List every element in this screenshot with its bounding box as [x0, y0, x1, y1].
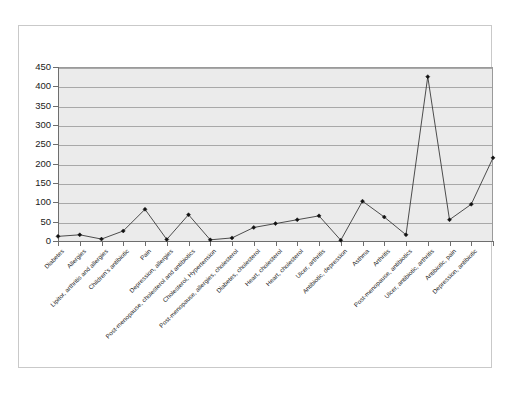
data-point — [491, 156, 495, 160]
y-axis-tick-label: 450 — [19, 62, 51, 72]
y-axis-tick-label: 300 — [19, 120, 51, 130]
x-axis-category-label: Pain — [139, 248, 153, 262]
y-axis-tick-label: 350 — [19, 101, 51, 111]
x-axis-category-label: Antibiotic, depression — [301, 248, 348, 295]
data-point — [100, 237, 104, 241]
series-line — [58, 77, 493, 241]
x-axis-category-label: Depression, antibiotic — [432, 248, 479, 295]
series-markers — [56, 75, 495, 243]
x-axis-category-label: Diabetes — [43, 248, 65, 270]
y-axis-tick-label: 200 — [19, 159, 51, 169]
y-axis-tick-label: 250 — [19, 139, 51, 149]
data-point — [295, 218, 299, 222]
y-axis-tick-label: 0 — [19, 236, 51, 246]
data-point — [426, 75, 430, 79]
x-axis-category-label: Asthma — [350, 248, 370, 268]
figure-frame: 450400350300250200150100500 DiabetesAlle… — [18, 25, 492, 368]
data-point — [274, 222, 278, 226]
y-axis-tick-label: 150 — [19, 178, 51, 188]
data-point — [56, 234, 60, 238]
data-point — [230, 236, 234, 240]
line-chart: 450400350300250200150100500 DiabetesAlle… — [19, 26, 493, 369]
x-axis-category-label: Children's antibiotic — [88, 248, 131, 291]
data-point — [78, 233, 82, 237]
y-axis-tick-label: 400 — [19, 81, 51, 91]
y-axis-tick-label: 100 — [19, 197, 51, 207]
y-axis-tick-label: 50 — [19, 217, 51, 227]
data-series — [58, 67, 494, 243]
data-point — [252, 225, 256, 229]
